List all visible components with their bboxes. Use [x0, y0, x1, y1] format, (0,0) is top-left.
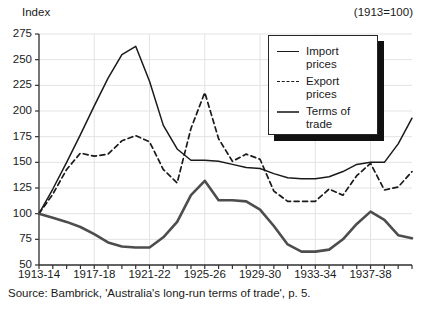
y-tick-label: 275 [2, 27, 32, 39]
legend-line-icon-import [277, 45, 299, 59]
legend-item-import-prices: Import prices [277, 45, 339, 70]
x-tick-label: 1933-34 [287, 268, 343, 280]
x-tick-label: 1937-38 [343, 268, 399, 280]
y-tick-label: 75 [2, 232, 32, 244]
series-line-terms-of-trade [39, 181, 412, 252]
y-tick-label: 150 [2, 155, 32, 167]
legend-label-import: Import prices [306, 45, 339, 70]
x-tick-label: 1913-14 [11, 268, 67, 280]
y-tick-label: 200 [2, 104, 32, 116]
x-tick-label: 1929-30 [232, 268, 288, 280]
chart-legend: Import prices Export prices Terms of tra… [268, 35, 378, 135]
y-tick-label: 175 [2, 130, 32, 142]
y-tick-label: 225 [2, 78, 32, 90]
y-tick-label: 125 [2, 181, 32, 193]
legend-item-export-prices: Export prices [277, 75, 339, 100]
legend-label-export: Export prices [306, 75, 339, 100]
legend-item-terms-of-trade: Terms of trade [277, 105, 350, 130]
legend-line-icon-export [277, 75, 299, 89]
y-tick-label: 250 [2, 53, 32, 65]
source-note: Source: Bambrick, 'Australia's long-run … [8, 287, 311, 299]
y-tick-label: 100 [2, 207, 32, 219]
x-tick-label: 1921-22 [122, 268, 178, 280]
x-tick-label: 1925-26 [177, 268, 233, 280]
x-tick-label: 1917-18 [66, 268, 122, 280]
legend-line-icon-terms [277, 105, 299, 119]
chart-figure: Index (1913=100) Import prices Export pr… [0, 0, 422, 309]
legend-label-terms: Terms of trade [306, 105, 350, 130]
